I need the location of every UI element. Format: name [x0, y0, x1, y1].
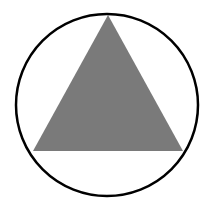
circle-triangle-diagram	[0, 0, 206, 211]
